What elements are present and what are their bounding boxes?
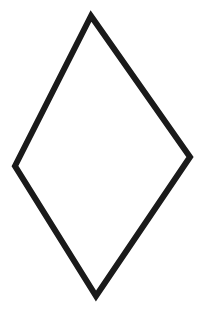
canvas-background <box>0 0 203 314</box>
rhombus-figure <box>0 0 203 314</box>
drawing-canvas <box>0 0 203 314</box>
